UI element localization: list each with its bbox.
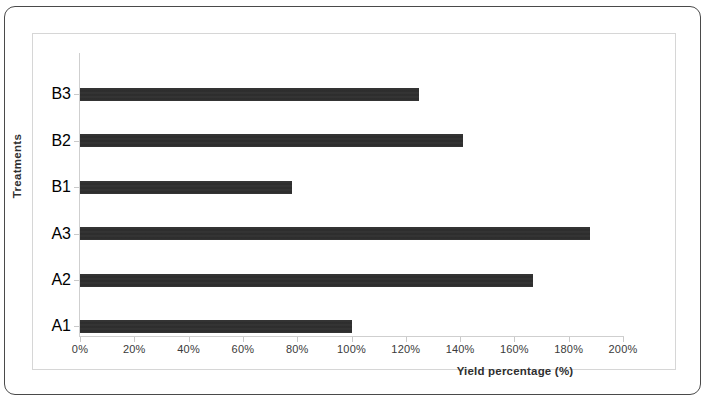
- y-axis-tick-label: A3: [40, 227, 71, 241]
- x-axis-tick: [569, 337, 570, 342]
- x-axis-tick-label: 20%: [107, 343, 161, 355]
- x-axis-tick: [80, 337, 81, 342]
- x-axis-tick: [623, 337, 624, 342]
- bar-a2: [80, 274, 533, 287]
- x-axis-tick: [189, 337, 190, 342]
- x-axis-tick-label: 80%: [270, 343, 324, 355]
- y-axis-tick-label: A1: [40, 319, 71, 333]
- bar-a1: [80, 320, 352, 333]
- x-axis-tick-label: 120%: [379, 343, 433, 355]
- bar-a3: [80, 227, 590, 240]
- bar-chart: B3B2B1A3A2A1 0%20%40%60%80%100%120%140%1…: [0, 0, 707, 402]
- y-axis-title: Treatments: [11, 101, 23, 231]
- x-axis-tick: [352, 337, 353, 342]
- y-axis-tick-label: B3: [40, 87, 71, 101]
- x-axis-tick: [243, 337, 244, 342]
- x-axis-tick-label: 200%: [596, 343, 650, 355]
- y-axis-tick: [74, 234, 79, 235]
- y-axis-tick: [74, 94, 79, 95]
- bar-b3: [80, 88, 419, 101]
- y-axis-tick: [74, 326, 79, 327]
- x-axis-tick: [134, 337, 135, 342]
- x-axis-tick-label: 140%: [433, 343, 487, 355]
- x-axis-tick-label: 160%: [487, 343, 541, 355]
- x-axis-tick-label: 180%: [542, 343, 596, 355]
- bar-b2: [80, 134, 463, 147]
- x-axis-tick: [460, 337, 461, 342]
- x-axis-tick-label: 60%: [216, 343, 270, 355]
- bar-b1: [80, 181, 292, 194]
- x-axis-tick: [406, 337, 407, 342]
- x-axis-tick: [514, 337, 515, 342]
- y-axis-tick-label: B1: [40, 180, 71, 194]
- x-axis-tick-label: 0%: [53, 343, 107, 355]
- y-axis-tick-label: A2: [40, 273, 71, 287]
- y-axis-tick: [74, 141, 79, 142]
- x-axis-tick: [297, 337, 298, 342]
- x-axis-title: Yield percentage (%): [400, 365, 630, 377]
- y-axis-tick: [74, 187, 79, 188]
- x-axis-tick-label: 100%: [325, 343, 379, 355]
- x-axis-tick-label: 40%: [162, 343, 216, 355]
- y-axis-tick: [74, 280, 79, 281]
- y-axis-tick-label: B2: [40, 134, 71, 148]
